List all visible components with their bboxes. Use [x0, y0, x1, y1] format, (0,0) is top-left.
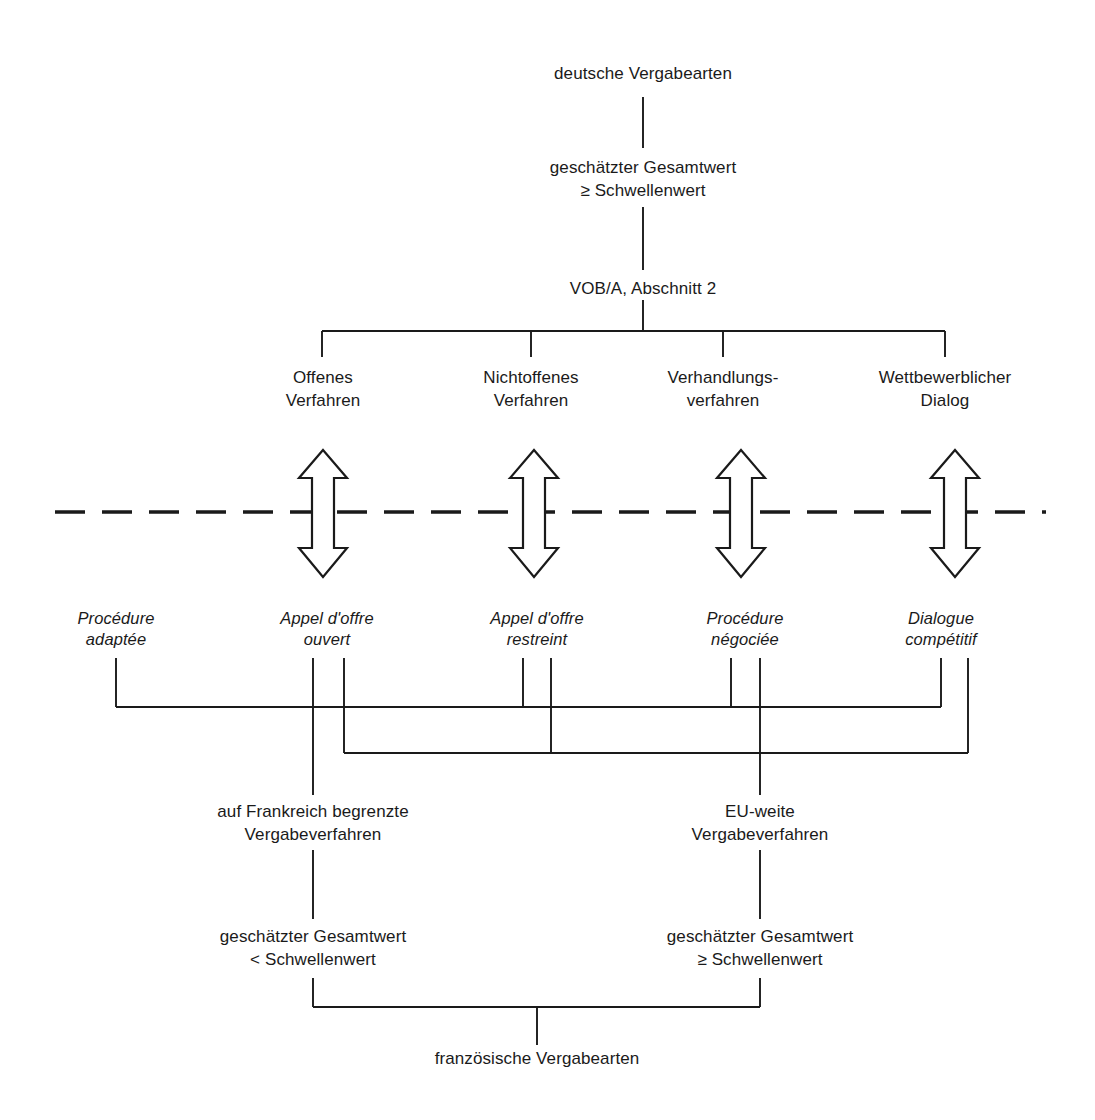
- node-eu-weite-vergabeverfahren: EU-weite Vergabeverfahren: [692, 800, 829, 846]
- node-threshold-french-above: geschätzter Gesamtwert ≥ Schwellenwert: [667, 925, 853, 971]
- equivalence-arrow-4: [931, 450, 979, 577]
- node-appel-doffre-restreint: Appel d'offre restreint: [490, 608, 583, 650]
- node-procedure-negociee: Procédure négociée: [706, 608, 783, 650]
- node-nichtoffenes-verfahren: Nichtoffenes Verfahren: [483, 366, 578, 412]
- node-deutsche-vergabearten: deutsche Vergabearten: [554, 62, 732, 85]
- node-wettbewerblicher-dialog: Wettbewerblicher Dialog: [879, 366, 1012, 412]
- node-threshold-german: geschätzter Gesamtwert ≥ Schwellenwert: [550, 156, 736, 202]
- node-offenes-verfahren: Offenes Verfahren: [286, 366, 361, 412]
- equivalence-arrow-3: [717, 450, 765, 577]
- equivalence-arrow-2: [510, 450, 558, 577]
- node-vob-a-abschnitt-2: VOB/A, Abschnitt 2: [570, 277, 716, 300]
- node-procedure-adaptee: Procédure adaptée: [77, 608, 154, 650]
- node-auf-frankreich-begrenzte-vergabeverfahren: auf Frankreich begrenzte Vergabeverfahre…: [217, 800, 408, 846]
- node-threshold-french-below: geschätzter Gesamtwert < Schwellenwert: [220, 925, 406, 971]
- node-verhandlungsverfahren: Verhandlungs- verfahren: [668, 366, 779, 412]
- diagram-canvas: deutsche Vergabearten geschätzter Gesamt…: [0, 0, 1095, 1120]
- diagram-connector-lines: [0, 0, 1095, 1120]
- node-franzoesische-vergabearten: französische Vergabearten: [435, 1047, 640, 1070]
- node-appel-doffre-ouvert: Appel d'offre ouvert: [280, 608, 373, 650]
- equivalence-arrow-1: [299, 450, 347, 577]
- node-dialogue-competitif: Dialogue compétitif: [905, 608, 977, 650]
